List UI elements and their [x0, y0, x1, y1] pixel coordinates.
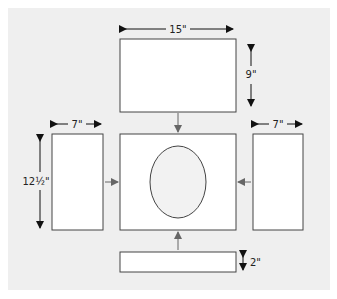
frame-diagram: 15" 9" 7" 12½" 7" 2"	[0, 0, 337, 299]
oval-opening	[150, 146, 206, 218]
top-height-label: 9"	[246, 69, 257, 80]
bottom-height-label: 2"	[250, 257, 261, 268]
right-width-label: 7"	[273, 119, 284, 130]
right-panel: 7"	[253, 119, 303, 230]
top-width-label: 15"	[169, 24, 186, 35]
left-width-label: 7"	[72, 119, 83, 130]
top-panel: 15" 9"	[120, 24, 256, 112]
center-panel	[120, 134, 236, 230]
left-panel: 7" 12½"	[22, 119, 103, 230]
bottom-panel: 2"	[120, 252, 261, 272]
left-height-label: 12½"	[22, 176, 49, 187]
